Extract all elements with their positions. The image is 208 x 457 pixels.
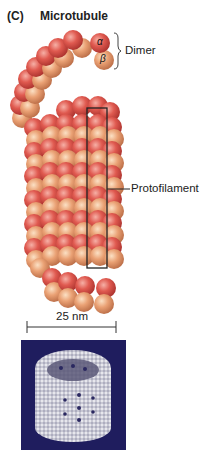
scale-bar [27,321,116,333]
microtubule-illustration [0,0,208,340]
em-reconstruction-image [21,340,126,450]
dimer-label: Dimer [125,44,156,56]
microtubule-em-structure [21,340,126,450]
protofilament-label: Protofilament [131,182,199,194]
alpha-label: α [97,36,103,47]
dimer-brace [114,33,121,69]
tube-bottom-spheres [30,258,116,314]
tube-rows [24,114,124,270]
scale-label: 25 nm [56,310,88,322]
beta-label: β [100,53,106,64]
